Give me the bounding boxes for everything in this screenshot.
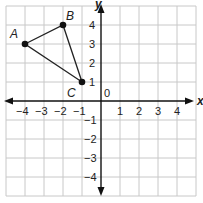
x-axis-right-arrow-icon — [185, 98, 194, 105]
origin-label: 0 — [104, 87, 110, 99]
y-tick: 4 — [89, 19, 95, 31]
x-tick: −3 — [35, 105, 48, 117]
point-a-label: A — [9, 27, 18, 41]
y-tick: −1 — [84, 114, 97, 126]
point-a — [22, 41, 29, 48]
triangle-abc — [25, 25, 82, 82]
y-tick: 1 — [89, 76, 95, 88]
x-tick: 2 — [136, 105, 142, 117]
y-tick: 3 — [89, 38, 95, 50]
y-tick: −2 — [84, 133, 97, 145]
x-axis-label: x — [196, 94, 203, 108]
y-axis-label: y — [94, 0, 103, 11]
point-b-label: B — [66, 9, 74, 23]
y-tick: −4 — [84, 171, 97, 183]
x-tick: 3 — [155, 105, 161, 117]
x-tick: 1 — [117, 105, 123, 117]
x-tick: −4 — [16, 105, 29, 117]
y-tick: −3 — [84, 152, 97, 164]
y-axis-down-arrow-icon — [98, 187, 105, 196]
point-c-label: C — [67, 86, 76, 100]
x-axis-left-arrow-icon — [4, 98, 13, 105]
x-tick: −2 — [54, 105, 67, 117]
coordinate-plane: x y 0 −4 −3 −2 −1 1 2 3 4 4 3 2 1 −1 −2 … — [0, 0, 203, 203]
point-c — [79, 79, 86, 86]
x-tick: 4 — [174, 105, 180, 117]
y-tick: 2 — [89, 57, 95, 69]
